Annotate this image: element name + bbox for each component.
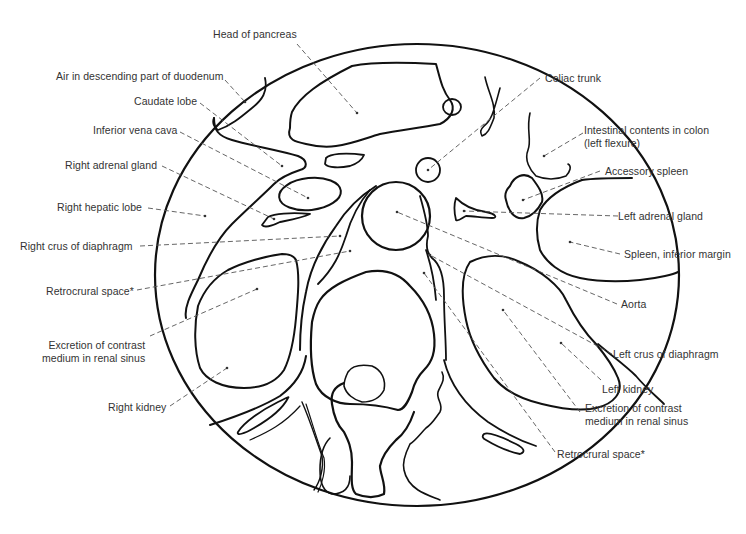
label-retrocrural-space-right: Retrocrural space*: [557, 448, 645, 461]
spleen-upper-edge: [582, 178, 632, 180]
label-left-kidney: Left kidney: [602, 383, 653, 396]
leader-right-adrenal: [162, 166, 274, 219]
colon-contents-outline: [527, 113, 570, 179]
colon-wall-outline: [481, 77, 500, 136]
leader-right-kidney: [170, 368, 227, 406]
leader-left-crus: [430, 255, 612, 354]
label-intestinal-line1: Intestinal contents in colon: [584, 124, 709, 137]
label-right-kidney: Right kidney: [108, 401, 166, 414]
leader-spleen: [570, 242, 620, 254]
spleen-outline: [537, 180, 678, 281]
label-intestinal-contents: Intestinal contents in colon (left flexu…: [584, 124, 709, 150]
left-adrenal-outline: [455, 198, 496, 221]
leader-left-kidney: [561, 343, 601, 380]
leader-caudate-lobe: [200, 103, 282, 166]
pancreas-head-outline: [289, 63, 453, 147]
leader-left-adrenal: [464, 211, 618, 216]
vertebral-body-outline: [311, 271, 435, 410]
label-spleen-inferior-margin: Spleen, inferior margin: [624, 248, 731, 261]
label-head-of-pancreas: Head of pancreas: [213, 28, 297, 41]
label-celiac-trunk: Celiac trunk: [545, 72, 601, 85]
label-excretion-left: Excretion of contrast medium in renal si…: [585, 402, 688, 428]
leader-intestinal: [544, 133, 583, 156]
label-right-hepatic-lobe: Right hepatic lobe: [57, 201, 142, 214]
right-rib-inner: [238, 397, 289, 434]
leader-ivc: [180, 132, 308, 198]
leader-air-duodenum: [225, 80, 245, 102]
label-inferior-vena-cava: Inferior vena cava: [93, 124, 177, 137]
ivc-outline: [277, 175, 342, 213]
left-rib-inner: [483, 433, 524, 454]
right-rib-line: [250, 406, 300, 440]
label-right-adrenal-gland: Right adrenal gland: [65, 159, 157, 172]
label-aorta: Aorta: [621, 298, 646, 311]
label-left-crus: Left crus of diaphragm: [613, 348, 719, 361]
label-excretion-right-line1: Excretion of contrast: [42, 339, 145, 352]
label-retrocrural-space-left: Retrocrural space*: [46, 285, 134, 298]
accessory-spleen-outline: [505, 175, 542, 218]
leader-lines: [137, 44, 620, 452]
label-caudate-lobe: Caudate lobe: [134, 95, 197, 108]
pancreas-sliver-outline: [325, 154, 364, 168]
label-excretion-right-line2: medium in renal sinus: [42, 352, 145, 365]
right-kidney-outline: [195, 254, 298, 388]
label-air-duodenum: Air in descending part of duodenum: [56, 70, 223, 83]
label-left-adrenal-gland: Left adrenal gland: [618, 210, 703, 223]
left-kidney-outline: [463, 256, 620, 410]
leader-right-crus: [140, 236, 340, 246]
liver-boundary-outline: [186, 118, 306, 318]
spinal-cord-outline: [344, 365, 385, 402]
label-right-crus: Right crus of diaphragm: [20, 240, 133, 253]
leader-right-hepatic: [148, 208, 205, 216]
aorta-outline: [362, 182, 430, 250]
leader-dots: [204, 101, 572, 370]
label-intestinal-line2: (left flexure): [584, 137, 709, 150]
label-excretion-left-line2: medium in renal sinus: [585, 415, 688, 428]
anatomy-figure: Head of pancreas Air in descending part …: [0, 0, 746, 534]
label-excretion-right: Excretion of contrast medium in renal si…: [42, 339, 145, 365]
label-excretion-left-line1: Excretion of contrast: [585, 402, 688, 415]
left-paraspinal-wavy: [403, 372, 443, 500]
leader-retrocrural-right: [424, 273, 555, 452]
right-adrenal-outline: [262, 213, 310, 226]
label-accessory-spleen: Accessory spleen: [605, 165, 688, 178]
